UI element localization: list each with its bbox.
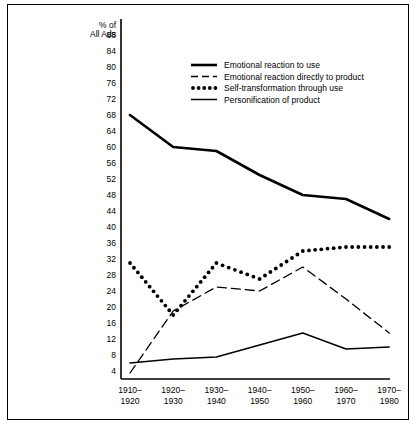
- y-axis-tick-label: 44: [90, 207, 116, 216]
- y-axis-tick-label: 40: [90, 223, 116, 232]
- legend-swatch-dotted: [214, 86, 218, 90]
- legend-swatch-dotted: [202, 86, 206, 90]
- legend-swatch-dotted: [191, 86, 195, 90]
- x-axis-tick-label: 1930–1940: [194, 385, 238, 406]
- data-series-layer: [128, 115, 391, 373]
- y-axis-tick-label: 12: [90, 335, 116, 344]
- legend-label: Emotional reaction to use: [224, 60, 320, 70]
- y-axis-tick-label: 4: [90, 367, 116, 376]
- y-axis-tick-label: 20: [90, 303, 116, 312]
- y-axis-tick-label: 72: [90, 95, 116, 104]
- y-axis-tick-label: 24: [90, 287, 116, 296]
- series-1-thick-solid: [130, 115, 389, 219]
- legend-swatch-dotted: [208, 86, 212, 90]
- x-axis-tick-label: 1970–1980: [367, 385, 411, 406]
- series-4-thin-solid: [130, 333, 389, 363]
- chart-canvas: [8, 5, 410, 421]
- legend-label: Emotional reaction directly to product: [224, 72, 364, 82]
- x-axis-tick-label: 1960–1970: [324, 385, 368, 406]
- x-axis-tick-label: 1910–1920: [108, 385, 152, 406]
- legend-swatch-layer: [191, 65, 217, 100]
- y-axis-tick-label: 84: [90, 47, 116, 56]
- y-axis-tick-label: 80: [90, 63, 116, 72]
- y-axis-tick-label: 76: [90, 79, 116, 88]
- y-axis-tick-label: 16: [90, 319, 116, 328]
- x-axis-tick-label: 1940–1950: [238, 385, 282, 406]
- x-axis-tick-label: 1920–1930: [151, 385, 195, 406]
- figure-frame: % of All Ads 481216202428323640444852566…: [7, 4, 409, 420]
- y-axis-tick-label: 88: [90, 31, 116, 40]
- y-axis-tick-label: 68: [90, 111, 116, 120]
- y-axis-tick-label: 36: [90, 239, 116, 248]
- legend-swatch-dotted: [197, 86, 201, 90]
- y-axis-tick-label: 56: [90, 159, 116, 168]
- y-axis-tick-label: 48: [90, 191, 116, 200]
- series-2-dashed: [130, 267, 389, 373]
- y-axis-tick-label: 32: [90, 255, 116, 264]
- legend-label: Personification of product: [224, 95, 320, 105]
- chart-plot-area: % of All Ads 481216202428323640444852566…: [8, 5, 410, 421]
- y-axis-tick-label: 28: [90, 271, 116, 280]
- series-3-dotted: [128, 245, 391, 317]
- x-axis-tick-label: 1950–1960: [281, 385, 325, 406]
- y-axis-tick-label: 52: [90, 175, 116, 184]
- y-axis-tick-label: 60: [90, 143, 116, 152]
- y-axis-tick-label: 64: [90, 127, 116, 136]
- y-axis-tick-label: 8: [90, 351, 116, 360]
- legend-label: Self-transformation through use: [224, 83, 343, 93]
